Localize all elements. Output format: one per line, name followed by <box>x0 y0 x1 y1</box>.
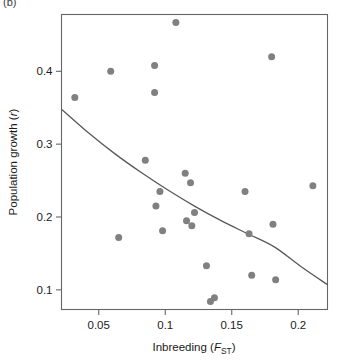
data-point <box>151 89 158 96</box>
data-point <box>182 170 189 177</box>
data-point <box>191 209 198 216</box>
data-point <box>142 157 149 164</box>
x-tick-label: 0.05 <box>88 319 110 331</box>
data-point <box>115 234 122 241</box>
fitted-trend-line <box>62 109 328 285</box>
x-tick-label: 0.1 <box>157 319 173 331</box>
data-point <box>242 188 249 195</box>
data-point <box>151 62 158 69</box>
data-point <box>203 262 210 269</box>
data-point <box>248 272 255 279</box>
data-point <box>183 217 190 224</box>
x-axis-title: Inbreeding (FST) <box>153 341 236 356</box>
y-axis-ticks: 0.10.20.30.4 <box>37 65 62 296</box>
data-point <box>188 222 195 229</box>
data-point <box>272 276 279 283</box>
data-points <box>71 19 316 305</box>
data-point <box>211 294 218 301</box>
data-point <box>309 182 316 189</box>
data-point <box>246 230 253 237</box>
figure-panel: (b) 0.050.10.150.2 0.10.20.30.4 Inbreedi… <box>0 0 341 364</box>
data-point <box>107 68 114 75</box>
y-tick-label: 0.3 <box>37 138 53 150</box>
plot-frame <box>62 15 328 310</box>
data-point <box>269 221 276 228</box>
data-point <box>71 94 78 101</box>
y-tick-label: 0.4 <box>37 65 54 77</box>
x-tick-label: 0.15 <box>221 319 243 331</box>
x-axis-ticks: 0.050.10.150.2 <box>88 310 307 331</box>
data-point <box>172 19 179 26</box>
data-point <box>156 188 163 195</box>
y-axis-title: Population growth (r) <box>7 108 19 215</box>
data-point <box>152 203 159 210</box>
data-point <box>268 53 275 60</box>
data-point <box>187 179 194 186</box>
data-point <box>159 227 166 234</box>
y-tick-label: 0.1 <box>37 284 53 296</box>
y-tick-label: 0.2 <box>37 211 53 223</box>
x-tick-label: 0.2 <box>290 319 306 331</box>
scatter-plot: 0.050.10.150.2 0.10.20.30.4 Inbreeding (… <box>0 0 341 364</box>
